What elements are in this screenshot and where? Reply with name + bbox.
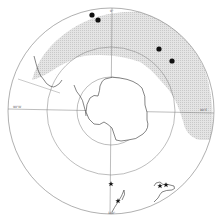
polar-map: 0° 90°W 90°E 180° .: [0, 0, 222, 222]
dot-marker[interactable]: [156, 46, 161, 51]
meridian-label-right: 90°E: [200, 108, 207, 112]
meridian-diagonal: [18, 79, 60, 93]
meridian-label-top: 0°: [110, 9, 114, 13]
antarctic-peninsula: [74, 85, 86, 116]
meridian-label-left: 90°W: [13, 105, 21, 109]
island-mark: .: [55, 72, 56, 76]
antarctica-coastline: [86, 77, 148, 141]
star-markers: [108, 181, 168, 203]
meridian-label-bottom: 180°: [108, 211, 116, 215]
dot-marker[interactable]: [89, 12, 94, 17]
star-marker[interactable]: [108, 181, 113, 186]
dot-marker[interactable]: [169, 58, 174, 63]
dot-marker[interactable]: [95, 17, 100, 22]
